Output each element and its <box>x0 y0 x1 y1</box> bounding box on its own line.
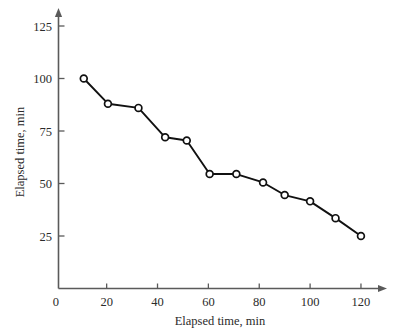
x-tick-label: 80 <box>253 295 266 309</box>
x-tick-label: 60 <box>202 295 215 309</box>
data-point-marker <box>233 171 240 178</box>
x-axis-title: Elapsed time, min <box>175 314 266 328</box>
data-point-marker <box>260 179 267 186</box>
data-point-marker <box>105 100 112 107</box>
data-point-marker <box>358 233 365 240</box>
data-point-marker <box>281 192 288 199</box>
data-point-marker <box>307 198 314 205</box>
data-point-marker <box>183 137 190 144</box>
chart-figure: 020406080100120 255075100125 Elapsed tim… <box>0 0 408 335</box>
data-point-marker <box>206 171 213 178</box>
data-point-marker <box>332 215 339 222</box>
y-tick-label: 25 <box>40 230 53 244</box>
chart-background <box>0 0 408 335</box>
y-tick-label: 75 <box>40 125 53 139</box>
y-tick-label: 125 <box>33 20 52 34</box>
x-tick-label: 0 <box>53 295 59 309</box>
data-point-marker <box>80 75 87 82</box>
x-tick-label: 20 <box>100 295 113 309</box>
y-tick-label: 100 <box>33 72 52 86</box>
y-axis-title: Elapsed time, min <box>13 106 27 197</box>
x-tick-label: 120 <box>352 295 371 309</box>
data-point-marker <box>162 134 169 141</box>
y-tick-label: 50 <box>40 177 53 191</box>
x-tick-label: 40 <box>151 295 164 309</box>
data-point-marker <box>135 105 142 112</box>
x-tick-label: 100 <box>301 295 320 309</box>
